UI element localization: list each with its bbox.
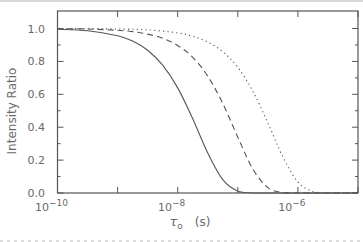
x-tick-labels: 10−1010−810−6	[35, 198, 306, 214]
x-tick-label: 10−10	[35, 198, 68, 214]
x-tick-label: 10−6	[278, 198, 306, 214]
plot-frame	[58, 11, 359, 193]
axis-ticks	[58, 11, 359, 193]
tau-symbol: τ	[170, 214, 178, 229]
y-tick-label: 1.0	[28, 23, 46, 36]
series-dotted-line	[58, 29, 359, 194]
intensity-ratio-chart: 0.00.20.40.60.81.0 10−1010−810−6 Intensi…	[0, 0, 363, 242]
x-tick-label: 10−8	[158, 198, 186, 214]
cropped-caption-line	[0, 238, 363, 242]
y-tick-label: 0.6	[28, 88, 46, 101]
series-solid-line	[58, 29, 359, 193]
y-tick-label: 0.4	[28, 121, 46, 134]
y-axis-label: Intensity Ratio	[5, 68, 19, 155]
x-axis-unit: (s)	[195, 215, 211, 229]
chart-series	[58, 29, 359, 194]
y-tick-label: 0.8	[28, 55, 46, 68]
y-tick-label: 0.0	[28, 187, 46, 200]
y-tick-label: 0.2	[28, 154, 46, 167]
series-dashed-line	[58, 29, 359, 193]
x-axis-label: τo(s)	[170, 214, 211, 231]
tau-subscript: o	[177, 221, 183, 231]
y-tick-labels: 0.00.20.40.60.81.0	[28, 23, 46, 201]
